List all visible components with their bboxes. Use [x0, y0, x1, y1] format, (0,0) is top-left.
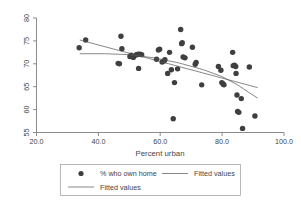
- data-point: [247, 64, 252, 69]
- data-point: [240, 126, 245, 131]
- y-tick-label: 75: [22, 37, 31, 45]
- data-point: [117, 61, 122, 66]
- legend-label-scatter: % who own home: [100, 169, 157, 178]
- chart-figure: 55 60 65 70 75 80 20.0 40.0 60.0 80.0 10…: [0, 0, 301, 201]
- data-point: [136, 66, 141, 71]
- data-point: [234, 92, 239, 97]
- x-tick-label: 40.0: [91, 137, 105, 146]
- legend-label-line-1: Fitted values: [194, 169, 235, 178]
- fitted-lines-layer: [80, 40, 258, 98]
- y-tick-label: 55: [22, 129, 31, 137]
- y-tick-label: 60: [22, 106, 31, 114]
- data-point: [171, 116, 176, 121]
- legend: % who own home Fitted values Fitted valu…: [61, 165, 241, 196]
- data-point: [182, 55, 187, 60]
- scatter-plot-svg: 55 60 65 70 75 80 20.0 40.0 60.0 80.0 10…: [0, 0, 301, 201]
- y-tick-label: 65: [22, 83, 31, 91]
- fitted-line-curved: [80, 54, 258, 98]
- data-point: [236, 110, 241, 115]
- legend-marker-scatter: [78, 171, 83, 176]
- data-point: [218, 68, 223, 73]
- data-point: [167, 50, 172, 55]
- data-point: [118, 34, 123, 39]
- data-point: [172, 80, 177, 85]
- fitted-line-straight: [80, 40, 258, 88]
- x-tick-label: 20.0: [30, 137, 44, 146]
- data-point: [239, 96, 244, 101]
- y-tick-label: 80: [22, 14, 31, 22]
- legend-label-line-2: Fitted values: [100, 183, 141, 192]
- y-tick-label: 70: [22, 60, 31, 68]
- data-point: [157, 46, 162, 51]
- x-tick-label: 100.0: [275, 137, 293, 146]
- data-point: [199, 82, 204, 87]
- data-point: [169, 67, 174, 72]
- data-point: [233, 64, 238, 69]
- x-tick-label: 80.0: [215, 137, 229, 146]
- data-point: [76, 45, 81, 50]
- x-axis-title: Percent urban: [136, 149, 185, 158]
- data-point: [252, 113, 257, 118]
- data-points-layer: [76, 27, 257, 131]
- plot-axes: [37, 18, 285, 133]
- data-point: [233, 71, 238, 76]
- y-axis-ticks: 55 60 65 70 75 80: [22, 14, 37, 137]
- x-axis-ticks: 20.0 40.0 60.0 80.0 100.0: [30, 133, 294, 147]
- data-point: [178, 27, 183, 32]
- x-tick-label: 60.0: [153, 137, 167, 146]
- data-point: [190, 45, 195, 50]
- data-point: [221, 82, 226, 87]
- data-point: [193, 60, 198, 65]
- data-point: [180, 40, 185, 45]
- data-point: [230, 50, 235, 55]
